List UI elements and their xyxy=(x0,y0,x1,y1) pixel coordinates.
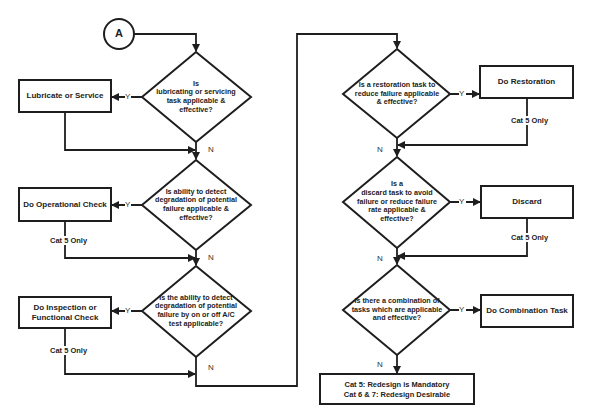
yes-label-d2: Y xyxy=(125,200,130,209)
decision-d2-text: Is ability to detect degradation of pote… xyxy=(148,185,244,225)
action-a5-text: Discard xyxy=(481,186,573,218)
decision-d6-text: Is there a combination of tasks which ar… xyxy=(343,295,451,325)
decision-d3-text: Is the ability to detect degradation of … xyxy=(146,291,246,331)
cat5-note-a5: Cat 5 Only xyxy=(510,233,549,242)
connector-a-line xyxy=(134,34,196,51)
no-label-d2: N xyxy=(208,253,214,262)
no-label-d3: N xyxy=(208,363,214,372)
action-a2-text: Do Operational Check xyxy=(19,188,111,221)
decision-d4-text: Is a restoration task to reduce failure … xyxy=(348,79,446,109)
decision-d1-text: Is lubricating or servicing task applica… xyxy=(150,77,242,117)
action-a6-text: Do Combination Task xyxy=(481,295,573,327)
no-label-d6: N xyxy=(377,360,383,369)
yes-label-d6: Y xyxy=(459,305,464,314)
cat5-note-a2: Cat 5 Only xyxy=(49,236,88,245)
no-label-d5: N xyxy=(377,254,383,263)
no-label-d4: N xyxy=(377,145,383,154)
action-a1-text: Lubricate or Service xyxy=(19,80,111,112)
final-redesign-box xyxy=(320,374,474,404)
final-line-2: Cat 6 & 7: Redesign Desirable xyxy=(320,390,474,399)
yes-label-d3: Y xyxy=(125,306,130,315)
no-label-d1: N xyxy=(208,145,214,154)
action-a4-text: Do Restoration xyxy=(480,66,573,98)
yes-label-d5: Y xyxy=(459,197,464,206)
connector-a-label: A xyxy=(104,27,134,39)
final-line-1: Cat 5: Redesign is Mandatory xyxy=(320,380,474,389)
yes-label-d1: Y xyxy=(125,92,130,101)
yes-label-d4: Y xyxy=(459,89,464,98)
decision-d5-text: Is a discard task to avoid failure or re… xyxy=(349,177,445,227)
cat5-note-a4: Cat 5 Only xyxy=(510,116,549,125)
cat5-note-a3: Cat 5 Only xyxy=(49,346,88,355)
action-a3-text: Do Inspection or Functional Check xyxy=(19,297,111,328)
